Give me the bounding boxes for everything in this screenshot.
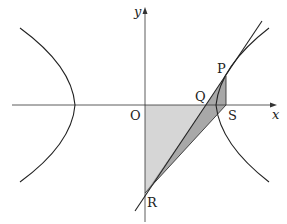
point-q-label: Q bbox=[195, 89, 206, 104]
y-axis-label: y bbox=[133, 4, 142, 19]
point-s-label: S bbox=[228, 108, 237, 123]
origin-label: O bbox=[130, 108, 141, 123]
x-axis-label: x bbox=[272, 107, 280, 122]
point-r-label: R bbox=[147, 195, 158, 210]
point-p-label: P bbox=[217, 61, 226, 76]
hyperbola-diagram: y x O P Q S R bbox=[0, 0, 287, 224]
y-axis-arrow-icon bbox=[143, 7, 148, 14]
